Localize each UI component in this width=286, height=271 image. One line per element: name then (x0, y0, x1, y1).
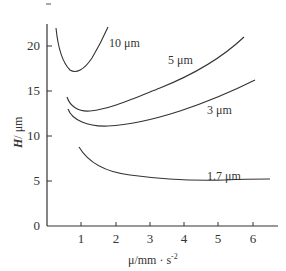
y-tick-label: 20 (27, 38, 40, 53)
curve-5um (67, 37, 244, 111)
x-tick-label: 3 (147, 231, 154, 246)
x-tick-label: 1 (78, 231, 85, 246)
y-ticks (47, 46, 52, 181)
y-axis-label: H/ μm (11, 116, 25, 149)
curve-label-3um: 3 μm (207, 103, 232, 117)
chart-svg: 0 5 10 15 20 1 2 3 4 5 6 μ/mm · s-2 H/ μ… (0, 0, 286, 271)
y-tick-label: 15 (27, 83, 40, 98)
chart-figure: 0 5 10 15 20 1 2 3 4 5 6 μ/mm · s-2 H/ μ… (0, 0, 286, 271)
y-tick-label: 5 (34, 173, 41, 188)
curve-label-10um: 10 μm (109, 36, 140, 50)
x-tick-label: 4 (181, 231, 188, 246)
curve-label-1-7um: 1.7 μm (207, 169, 241, 183)
y-tick-label: 0 (34, 218, 41, 233)
curve-1-7um (79, 147, 270, 180)
x-tick-label: 5 (215, 231, 222, 246)
y-tick-label: 10 (27, 128, 40, 143)
x-tick-label: 2 (113, 231, 120, 246)
curve-10um (56, 27, 108, 72)
x-axis-label: μ/mm · s-2 (128, 252, 178, 267)
curve-label-5um: 5 μm (168, 53, 193, 67)
x-tick-label: 6 (250, 231, 257, 246)
